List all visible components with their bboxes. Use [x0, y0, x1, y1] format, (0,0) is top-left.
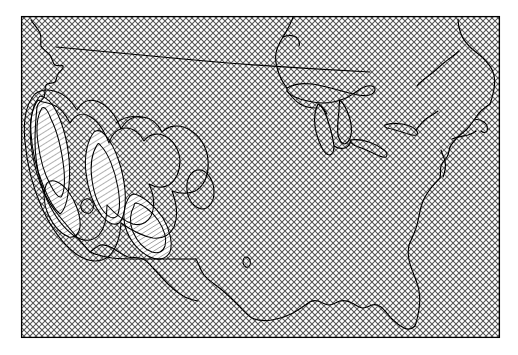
contour-map-canvas — [0, 0, 518, 355]
figure-root — [0, 0, 518, 355]
plot-area — [21, 16, 500, 338]
